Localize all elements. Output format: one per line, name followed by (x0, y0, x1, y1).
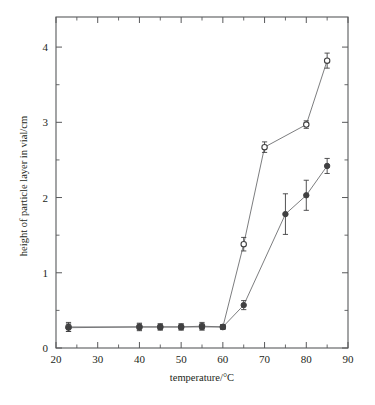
y-tick-label: 2 (43, 192, 49, 204)
data-point-marker (324, 58, 329, 63)
data-point-marker (304, 193, 309, 198)
data-point-marker (304, 122, 309, 127)
data-point-marker (324, 163, 329, 168)
y-tick-label: 3 (43, 116, 49, 128)
data-point-marker (178, 324, 183, 329)
y-tick-label: 4 (43, 41, 49, 53)
x-axis-title: temperature/°C (170, 372, 234, 383)
y-tick-label: 1 (43, 267, 49, 279)
data-point-marker (220, 324, 225, 329)
data-point-marker (66, 325, 71, 330)
x-tick-label: 90 (343, 353, 355, 365)
data-point-marker (283, 211, 288, 216)
data-point-marker (199, 324, 204, 329)
y-tick-label: 0 (43, 342, 49, 354)
x-tick-label: 60 (217, 353, 229, 365)
x-tick-label: 20 (51, 353, 63, 365)
data-point-marker (262, 144, 267, 149)
data-point-marker (241, 241, 246, 246)
data-point-marker (137, 324, 142, 329)
chart-figure: 2030405060708090 01234 temperature/°C he… (0, 0, 375, 405)
data-point-marker (241, 302, 246, 307)
x-tick-label: 80 (301, 353, 313, 365)
x-tick-label: 30 (92, 353, 104, 365)
data-point-marker (158, 324, 163, 329)
x-tick-label: 50 (176, 353, 188, 365)
y-axis-title: height of particle layer in vial/cm (18, 116, 29, 256)
x-tick-label: 70 (259, 353, 271, 365)
particle-layer-height-chart: 2030405060708090 01234 temperature/°C he… (0, 0, 375, 405)
x-tick-label: 40 (134, 353, 146, 365)
